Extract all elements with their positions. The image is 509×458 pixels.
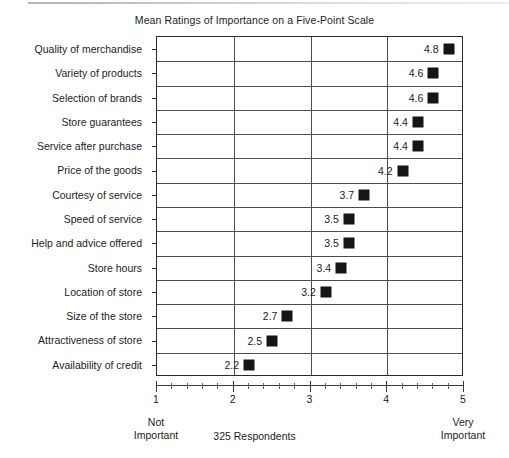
x-axis-major-tick bbox=[463, 381, 464, 392]
data-point-marker bbox=[320, 286, 331, 297]
category-label: Location of store bbox=[64, 280, 142, 304]
x-axis-minor-tick bbox=[340, 383, 341, 389]
plot-area: Quality of merchandise4.8Variety of prod… bbox=[156, 36, 463, 376]
y-axis-tick bbox=[152, 171, 157, 172]
chart-row: Availability of credit2.2 bbox=[157, 353, 462, 377]
category-label: Store hours bbox=[88, 256, 142, 280]
category-label: Price of the goods bbox=[57, 158, 142, 182]
data-point-value: 4.8 bbox=[424, 43, 439, 55]
chart-row: Store hours3.4 bbox=[157, 256, 462, 280]
x-axis-minor-tick bbox=[356, 383, 357, 389]
data-point-marker bbox=[443, 44, 454, 55]
chart-row: Store guarantees4.4 bbox=[157, 110, 462, 134]
y-axis-tick bbox=[152, 365, 157, 366]
y-axis-tick bbox=[152, 146, 157, 147]
data-point-value: 4.2 bbox=[378, 165, 393, 177]
x-axis-minor-tick bbox=[202, 383, 203, 389]
data-point-value: 2.5 bbox=[248, 335, 263, 347]
category-label: Attractiveness of store bbox=[38, 328, 142, 352]
respondents-caption: 325 Respondents bbox=[0, 430, 509, 442]
x-axis-minor-tick bbox=[279, 383, 280, 389]
y-axis-tick bbox=[152, 73, 157, 74]
y-axis-tick bbox=[152, 122, 157, 123]
category-label: Help and advice offered bbox=[31, 231, 142, 255]
y-axis-tick bbox=[152, 219, 157, 220]
chart-row: Variety of products4.6 bbox=[157, 61, 462, 85]
x-axis-major-tick bbox=[233, 381, 234, 392]
data-point-marker bbox=[359, 189, 370, 200]
x-axis-tick-label: 4 bbox=[383, 393, 389, 405]
category-label: Store guarantees bbox=[61, 110, 142, 134]
data-point-marker bbox=[336, 262, 347, 273]
chart-row: Speed of service3.5 bbox=[157, 207, 462, 231]
x-axis-tick-label: 2 bbox=[230, 393, 236, 405]
y-axis-tick bbox=[152, 195, 157, 196]
chart-row: Service after purchase4.4 bbox=[157, 134, 462, 158]
x-axis-minor-tick bbox=[371, 383, 372, 389]
data-point-marker bbox=[282, 311, 293, 322]
chart-row: Quality of merchandise4.8 bbox=[157, 37, 462, 61]
data-point-marker bbox=[244, 359, 255, 370]
data-point-marker bbox=[412, 116, 423, 127]
data-point-value: 3.5 bbox=[324, 213, 339, 225]
x-axis-minor-tick bbox=[417, 383, 418, 389]
category-label: Speed of service bbox=[64, 207, 142, 231]
chart-title: Mean Ratings of Importance on a Five-Poi… bbox=[0, 14, 509, 26]
x-axis-tick-label: 3 bbox=[307, 393, 313, 405]
data-point-marker bbox=[428, 92, 439, 103]
data-point-value: 4.4 bbox=[393, 116, 408, 128]
chart-row: Help and advice offered3.5 bbox=[157, 231, 462, 255]
x-axis-tick-label: 5 bbox=[460, 393, 466, 405]
category-label: Variety of products bbox=[55, 61, 142, 85]
data-point-marker bbox=[428, 68, 439, 79]
data-point-value: 3.7 bbox=[340, 189, 355, 201]
chart-row: Size of the store2.7 bbox=[157, 304, 462, 328]
chart-row: Courtesy of service3.7 bbox=[157, 183, 462, 207]
x-axis-major-tick bbox=[310, 381, 311, 392]
x-axis-minor-tick bbox=[263, 383, 264, 389]
chart-row: Attractiveness of store2.5 bbox=[157, 328, 462, 352]
axis-anchor-high-line1: Very bbox=[408, 416, 509, 429]
y-axis-tick bbox=[152, 268, 157, 269]
data-point-value: 3.5 bbox=[324, 237, 339, 249]
x-axis-minor-tick bbox=[448, 383, 449, 389]
x-axis-minor-tick bbox=[325, 383, 326, 389]
data-point-value: 2.2 bbox=[224, 359, 239, 371]
importance-ratings-chart: Mean Ratings of Importance on a Five-Poi… bbox=[0, 0, 509, 458]
chart-row: Location of store3.2 bbox=[157, 280, 462, 304]
data-point-marker bbox=[343, 238, 354, 249]
data-point-marker bbox=[412, 141, 423, 152]
data-point-value: 4.6 bbox=[409, 92, 424, 104]
data-point-value: 2.7 bbox=[263, 310, 278, 322]
chart-row: Price of the goods4.2 bbox=[157, 158, 462, 182]
x-axis-minor-tick bbox=[294, 383, 295, 389]
data-point-marker bbox=[267, 335, 278, 346]
x-axis-minor-tick bbox=[187, 383, 188, 389]
category-label: Availability of credit bbox=[52, 353, 142, 377]
x-axis-minor-tick bbox=[248, 383, 249, 389]
data-point-value: 3.4 bbox=[317, 262, 332, 274]
x-axis bbox=[156, 385, 463, 386]
x-axis-minor-tick bbox=[402, 383, 403, 389]
y-axis-tick bbox=[152, 243, 157, 244]
x-axis-major-tick bbox=[386, 381, 387, 392]
y-axis-tick bbox=[152, 316, 157, 317]
x-axis-minor-tick bbox=[217, 383, 218, 389]
x-axis-minor-tick bbox=[171, 383, 172, 389]
x-axis-tick-label: 1 bbox=[153, 393, 159, 405]
category-label: Courtesy of service bbox=[52, 183, 142, 207]
data-point-marker bbox=[343, 214, 354, 225]
y-axis-tick bbox=[152, 292, 157, 293]
y-axis-tick bbox=[152, 98, 157, 99]
y-axis-tick bbox=[152, 341, 157, 342]
chart-row: Selection of brands4.6 bbox=[157, 86, 462, 110]
category-label: Selection of brands bbox=[52, 86, 142, 110]
category-label: Quality of merchandise bbox=[35, 37, 142, 61]
data-point-value: 4.4 bbox=[393, 140, 408, 152]
x-axis-major-tick bbox=[156, 381, 157, 392]
category-label: Size of the store bbox=[66, 304, 142, 328]
category-label: Service after purchase bbox=[37, 134, 142, 158]
data-point-value: 4.6 bbox=[409, 67, 424, 79]
axis-anchor-low-line1: Not bbox=[101, 416, 211, 429]
x-axis-minor-tick bbox=[432, 383, 433, 389]
